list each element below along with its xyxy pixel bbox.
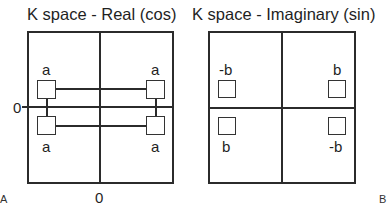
panel-b-point-upper-left — [218, 80, 236, 98]
panel-a-label-lower-left: a — [42, 139, 50, 154]
panel-b-horizontal-axis — [208, 107, 356, 109]
panel-a-connector-bottom — [56, 125, 146, 127]
panel-a-horizontal-axis — [22, 106, 174, 108]
panel-a-title: K space - Real (cos) — [27, 6, 176, 23]
panel-a-letter: A — [0, 194, 7, 205]
panel-a-x-zero-label: 0 — [95, 190, 103, 205]
panel-b-label-lower-left: b — [222, 139, 230, 154]
panel-a-label-lower-right: a — [151, 139, 159, 154]
panel-a-label-upper-right: a — [151, 62, 159, 77]
panel-b-point-lower-right — [328, 117, 346, 135]
panel-a-point-lower-right — [146, 116, 165, 135]
panel-b-label-upper-right: b — [333, 62, 341, 77]
panel-b-letter: B — [379, 194, 386, 205]
panel-a-point-lower-left — [37, 116, 56, 135]
panel-b-title: K space - Imaginary (sin) — [192, 6, 375, 23]
panel-a-point-upper-right — [146, 80, 165, 99]
panel-a-connector-top — [56, 88, 146, 90]
panel-b-point-upper-right — [328, 80, 346, 98]
panel-a-connector-left — [46, 98, 48, 116]
panel-b-label-lower-right: -b — [329, 139, 342, 154]
panel-a-label-upper-left: a — [42, 62, 50, 77]
panel-a-y-zero-label: 0 — [13, 100, 21, 115]
panel-b-label-upper-left: -b — [219, 62, 232, 77]
panel-a-point-upper-left — [37, 80, 56, 99]
panel-a-connector-right — [155, 98, 157, 116]
panel-b-point-lower-left — [218, 117, 236, 135]
